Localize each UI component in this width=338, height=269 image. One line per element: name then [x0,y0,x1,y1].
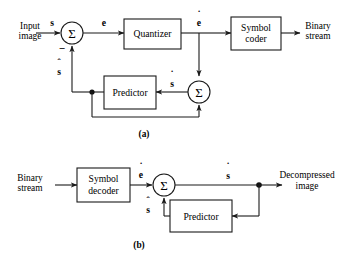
binary-stream-label-line2: stream [306,31,332,41]
predictor-label-b: Predictor [183,211,219,222]
panel-a-encoder: Input image s Σ − e Quantizer ˙ e [19,9,332,140]
symbol-coder-label-line2: coder [245,33,267,44]
signal-s-label: s [50,17,54,28]
signal-edot-label-b: e [139,169,144,180]
summer-b-sigma: Σ [160,178,168,193]
decompressed-image-label-line2: image [296,181,319,191]
predictor-label: Predictor [112,87,148,98]
symbol-coder-label-line1: Symbol [241,22,271,33]
binary-stream-in-label-line1: Binary [17,173,43,183]
symbol-decoder-label-line2: decoder [88,185,119,196]
input-image-label-line1: Input [20,21,40,31]
decompressed-image-label-line1: Decompressed [279,170,335,180]
quantizer-label: Quantizer [134,28,173,39]
caption-panel-b: (b) [133,240,144,251]
block-diagram-canvas: Input image s Σ − e Quantizer ˙ e [0,0,338,269]
summer-1-minus-sign: − [59,42,65,54]
panel-b-decoder: Binary stream Symbol decoder ˙ e Σ ˙ s [17,161,335,251]
symbol-decoder-label-line1: Symbol [89,173,119,184]
binary-stream-in-label-line2: stream [18,183,44,193]
binary-stream-label-line1: Binary [305,21,331,31]
caption-panel-a: (a) [139,129,150,140]
signal-edot-label: e [197,17,202,28]
signal-sdot-label-b: s [226,170,230,181]
summer-2-sigma: Σ [195,85,203,100]
signal-shat-label: s [57,66,61,77]
figure-root: Input image s Σ − e Quantizer ˙ e [0,0,338,269]
summer-1-sigma: Σ [68,26,76,41]
signal-e-label: e [102,17,107,28]
signal-sdot-label: s [170,78,174,89]
signal-shat-label-b: s [146,204,150,215]
